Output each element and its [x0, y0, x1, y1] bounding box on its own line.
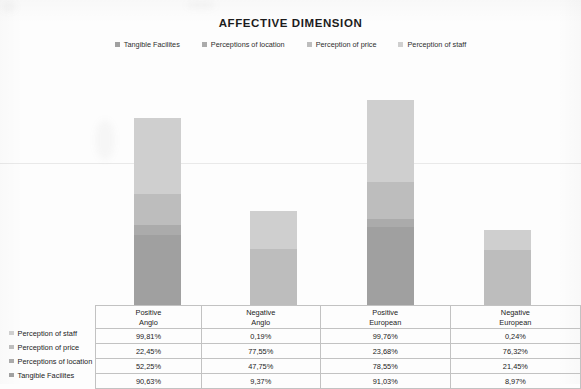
table-cell: 91,03% [320, 374, 450, 389]
legend-item-perception-of-price: Perception of price [307, 40, 377, 49]
table-cell: 23,68% [320, 344, 450, 359]
header-line-1: Positive [321, 308, 450, 318]
table-cell: 76,32% [450, 344, 580, 359]
row-label-text: Perceptions of location [18, 357, 93, 366]
chart-legend: Tangible Facilites Perceptions of locati… [0, 40, 581, 49]
legend-item-tangible-facilites: Tangible Facilites [115, 40, 180, 49]
legend-swatch-tangible-facilites [9, 373, 14, 378]
row-label-text: Perception of price [18, 343, 80, 352]
table-header-positive-european: Positive European [320, 306, 450, 329]
legend-label-tangible-facilites: Tangible Facilites [124, 40, 180, 49]
table-header-row: Positive Anglo Negative Anglo Positive E… [96, 306, 581, 329]
table-cell: 0,24% [450, 329, 580, 344]
bar-segment-tangible-facilites [367, 227, 414, 305]
legend-swatch-perceptions-of-location [9, 359, 14, 364]
header-line-2: Anglo [96, 318, 201, 328]
table-header-negative-european: Negative European [450, 306, 580, 329]
row-label-text: Tangible Facilites [18, 371, 75, 380]
legend-swatch-perceptions-of-location [202, 42, 207, 47]
table-corner-blank [0, 305, 95, 326]
header-line-2: European [321, 318, 450, 328]
table-row: 22,45% 77,55% 23,68% 76,32% [96, 344, 581, 359]
table-row-label-column: Perception of staff Perception of price … [0, 326, 95, 382]
bar-column-negative-european [484, 230, 531, 305]
row-label-text: Perception of staff [18, 329, 77, 338]
scan-smudge [186, 1, 216, 9]
chart-data-table: Positive Anglo Negative Anglo Positive E… [95, 305, 581, 389]
table-cell: 47,75% [201, 359, 320, 374]
table-row-label-tangible-facilites: Tangible Facilites [0, 368, 95, 382]
legend-item-perception-of-staff: Perception of staff [398, 40, 466, 49]
bar-segment-perception-of-staff [367, 100, 414, 182]
table-cell: 0,19% [201, 329, 320, 344]
bar-segment-perception-of-staff [250, 211, 297, 249]
bar-segment-perception-of-staff [484, 230, 531, 250]
header-line-1: Positive [96, 308, 201, 318]
bar-column-negative-anglo [250, 211, 297, 305]
bar-column-positive-anglo [134, 118, 181, 305]
legend-swatch-perception-of-staff [9, 331, 14, 336]
table-cell: 99,76% [320, 329, 450, 344]
bar-segment-perceptions-of-location [134, 225, 181, 235]
scan-smudge [2, 2, 16, 12]
table-cell: 22,45% [96, 344, 202, 359]
table-cell: 90,63% [96, 374, 202, 389]
legend-swatch-perception-of-price [307, 42, 312, 47]
table-cell: 77,55% [201, 344, 320, 359]
table-header-negative-anglo: Negative Anglo [201, 306, 320, 329]
bar-segment-perception-of-price [134, 194, 181, 225]
table-header-positive-anglo: Positive Anglo [96, 306, 202, 329]
table-cell: 9,37% [201, 374, 320, 389]
table-row-label-perceptions-of-location: Perceptions of location [0, 354, 95, 368]
header-line-2: European [451, 318, 580, 328]
table-row: 99,81% 0,19% 99,76% 0,24% [96, 329, 581, 344]
legend-item-perceptions-of-location: Perceptions of location [202, 40, 285, 49]
table-cell: 8,97% [450, 374, 580, 389]
legend-label-perception-of-price: Perception of price [316, 40, 377, 49]
table-row-label-perception-of-price: Perception of price [0, 340, 95, 354]
bar-segment-perception-of-price [367, 182, 414, 219]
legend-swatch-perception-of-staff [398, 42, 403, 47]
bar-segment-tangible-facilites [134, 235, 181, 305]
table-cell: 78,55% [320, 359, 450, 374]
legend-label-perception-of-staff: Perception of staff [407, 40, 466, 49]
table-cell: 21,45% [450, 359, 580, 374]
legend-label-perceptions-of-location: Perceptions of location [211, 40, 285, 49]
legend-swatch-tangible-facilites [115, 42, 120, 47]
page-title: AFFECTIVE DIMENSION [0, 17, 581, 29]
table-row: 52,25% 47,75% 78,55% 21,45% [96, 359, 581, 374]
table-cell: 52,25% [96, 359, 202, 374]
table-row-label-perception-of-staff: Perception of staff [0, 326, 95, 340]
legend-swatch-perception-of-price [9, 345, 14, 350]
header-line-2: Anglo [202, 318, 320, 328]
bar-segment-perception-of-staff [134, 118, 181, 194]
bar-segment-perceptions-of-location [367, 219, 414, 227]
bar-column-positive-european [367, 100, 414, 305]
header-line-1: Negative [202, 308, 320, 318]
table-row: 90,63% 9,37% 91,03% 8,97% [96, 374, 581, 389]
bar-segment-perception-of-price [250, 249, 297, 305]
table-cell: 99,81% [96, 329, 202, 344]
header-line-1: Negative [451, 308, 580, 318]
chart-plot-area [0, 60, 581, 305]
bar-segment-perception-of-price [484, 250, 531, 305]
